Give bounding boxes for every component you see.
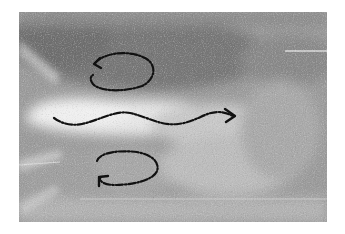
flow-visualization-figure [0, 0, 345, 234]
flow-photo-canvas [0, 0, 345, 234]
flow-photograph [10, 10, 340, 222]
